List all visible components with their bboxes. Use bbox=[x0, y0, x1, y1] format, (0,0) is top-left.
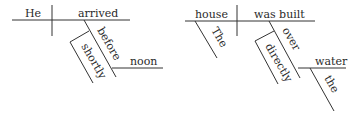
subject-word: He bbox=[25, 7, 41, 20]
object-word: water bbox=[315, 55, 348, 68]
verb-word: arrived bbox=[78, 7, 118, 20]
verb-word: was built bbox=[254, 8, 305, 21]
subject-word: house bbox=[195, 8, 228, 21]
preposition-word: over bbox=[279, 25, 303, 53]
object-modifier-word: the bbox=[321, 73, 341, 95]
sentence-diagrams: He arrived before shortly noon house was… bbox=[0, 0, 363, 114]
diagram-2: house was built The over directly water … bbox=[185, 5, 348, 111]
object-word: noon bbox=[130, 55, 157, 68]
diagram-1: He arrived before shortly noon bbox=[12, 5, 163, 83]
subject-modifier-word: The bbox=[208, 25, 230, 50]
